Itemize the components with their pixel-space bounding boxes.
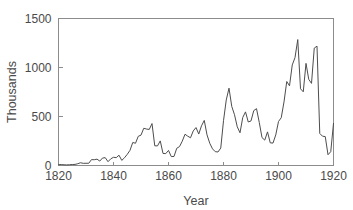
- y-axis-tick-labels: 050010001500: [25, 12, 52, 173]
- y-tick-label: 500: [31, 110, 51, 124]
- data-series-immigration: [59, 40, 334, 165]
- x-axis-tick-marks: [59, 162, 334, 166]
- immigration-line-chart: 182018401860188019001920 050010001500 Ye…: [0, 0, 353, 210]
- y-axis-tick-marks: [59, 19, 63, 166]
- y-tick-label: 1500: [25, 12, 52, 26]
- y-tick-label: 1000: [25, 61, 52, 75]
- x-tick-label: 1840: [100, 169, 127, 183]
- y-axis-label: Thousands: [5, 61, 19, 123]
- x-tick-label: 1900: [265, 169, 292, 183]
- plot-frame: [59, 19, 334, 166]
- x-axis-label: Year: [183, 194, 208, 208]
- chart-canvas: 182018401860188019001920 050010001500 Ye…: [0, 0, 353, 210]
- x-tick-label: 1860: [155, 169, 182, 183]
- x-tick-label: 1880: [210, 169, 237, 183]
- x-axis-tick-labels: 182018401860188019001920: [45, 169, 347, 183]
- y-tick-label: 0: [45, 159, 52, 173]
- x-tick-label: 1920: [320, 169, 347, 183]
